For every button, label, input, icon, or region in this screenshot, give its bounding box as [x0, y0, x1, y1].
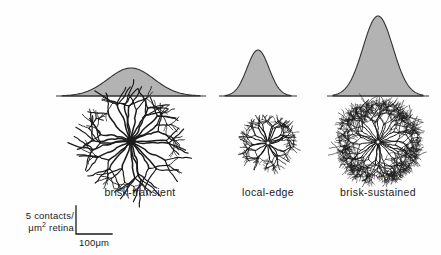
- column-label-brisk-sustained: brisk-sustained: [340, 186, 416, 198]
- neuron-drawing-local-edge: [238, 115, 300, 174]
- scale-bar-unit-suffix: retina: [46, 222, 74, 233]
- distribution-curve-local-edge: [219, 50, 297, 96]
- scale-bar-lines: [76, 206, 112, 234]
- scale-bar-vertical-label-line2: μm2 retina: [8, 222, 74, 235]
- retinal-ganglion-cell-figure: brisk-transient local-edge brisk-sustain…: [0, 0, 441, 255]
- scale-bar-vertical-label-line1: 5 contacts/: [26, 210, 74, 221]
- scale-bar-horizontal-label: 100μm: [79, 237, 109, 248]
- distribution-curve-brisk-transient: [56, 68, 206, 96]
- scale-bar-unit-exponent: 2: [42, 221, 46, 228]
- scale-bar-vertical-label: 5 contacts/ μm2 retina: [8, 210, 74, 234]
- scale-bar-unit-prefix: μm: [28, 222, 42, 233]
- neuron-drawing-brisk-sustained: [328, 94, 426, 187]
- distribution-curve-brisk-sustained: [327, 16, 429, 96]
- column-label-brisk-transient: brisk-transient: [104, 186, 175, 198]
- distribution-curves-group: [56, 16, 429, 96]
- column-label-local-edge: local-edge: [242, 186, 294, 198]
- scale-bar-group: [76, 206, 112, 234]
